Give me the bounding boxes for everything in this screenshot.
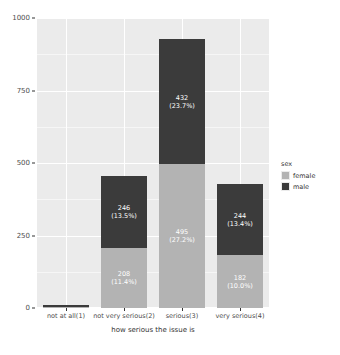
legend-label-male: male [293, 183, 309, 191]
bar-label-female-percent-2: (11.4%) [111, 278, 137, 286]
bar-label-female-percent-4: (10.0%) [227, 282, 253, 290]
y-tick-mark-500 [32, 163, 35, 164]
bar-group-very-serious[interactable]: 182 (10.0%) 244 (13.4%) [217, 184, 263, 308]
bar-segment-female-very-serious[interactable]: 182 (10.0%) [217, 255, 263, 308]
bar-label-female-value-3: 495 [176, 228, 188, 236]
legend-key-male [281, 182, 290, 191]
x-tick-mark-1 [66, 308, 67, 311]
legend-item-male[interactable]: male [281, 182, 337, 191]
legend-key-female [281, 171, 290, 180]
y-tick-mark-0 [32, 308, 35, 309]
stacked-bar-chart: 1000 750 500 250 0 [0, 0, 340, 355]
bar-label-male-value-2: 246 [118, 204, 130, 212]
bar-label-male-value-4: 244 [234, 212, 246, 220]
bar-label-male-percent-2: (13.5%) [111, 212, 137, 220]
y-tick-mark-1000 [32, 18, 35, 19]
bar-label-female-value-4: 182 [234, 274, 246, 282]
x-axis: not at all(1) not very serious(2) seriou… [37, 308, 269, 324]
bar-group-not-very-serious[interactable]: 208 (11.4%) 246 (13.5%) [101, 176, 147, 308]
bar-group-serious[interactable]: 495 (27.2%) 432 (23.7%) [159, 39, 205, 308]
bar-label-male-percent-3: (23.7%) [169, 102, 195, 110]
bar-label-female-value-2: 208 [118, 270, 130, 278]
legend: sex female male [281, 160, 337, 193]
x-tick-mark-4 [240, 308, 241, 311]
bar-segment-female-not-very-serious[interactable]: 208 (11.4%) [101, 248, 147, 308]
x-tick-mark-3 [182, 308, 183, 311]
bar-segment-male-serious[interactable]: 432 (23.7%) [159, 39, 205, 164]
gridline-y-625 [37, 127, 269, 128]
legend-label-female: female [293, 172, 315, 180]
bar-segment-female-serious[interactable]: 495 (27.2%) [159, 164, 205, 308]
x-tick-label-not-very-serious: not very serious(2) [93, 312, 155, 320]
legend-title: sex [281, 160, 337, 168]
gridline-y-500 [37, 163, 269, 164]
bar-label-male-percent-4: (13.4%) [227, 220, 253, 228]
y-tick-label-250: 250 [17, 232, 30, 240]
y-tick-label-0: 0 [26, 304, 30, 312]
x-tick-label-serious: serious(3) [166, 312, 199, 320]
y-tick-mark-250 [32, 235, 35, 236]
bar-label-male-value-3: 432 [176, 94, 188, 102]
bar-segment-male-very-serious[interactable]: 244 (13.4%) [217, 184, 263, 255]
x-tick-label-very-serious: very serious(4) [216, 312, 265, 320]
gridline-y-750 [37, 91, 269, 92]
gridline-x-cat1 [66, 18, 67, 308]
y-axis: 1000 750 500 250 0 [0, 18, 36, 308]
plot-panel: 208 (11.4%) 246 (13.5%) 495 (27.2%) 432 … [37, 18, 269, 308]
legend-swatch-male [282, 183, 289, 190]
bar-segment-male-not-at-all[interactable] [43, 305, 89, 307]
x-axis-title: how serious the issue is [37, 326, 269, 334]
x-tick-label-not-at-all: not at all(1) [47, 312, 85, 320]
legend-item-female[interactable]: female [281, 171, 337, 180]
gridline-y-1000 [37, 18, 269, 19]
y-tick-label-1000: 1000 [12, 14, 30, 22]
x-tick-mark-2 [124, 308, 125, 311]
bar-label-female-percent-3: (27.2%) [169, 236, 195, 244]
legend-swatch-female [282, 172, 289, 179]
gridline-y-875 [37, 54, 269, 55]
bar-segment-male-not-very-serious[interactable]: 246 (13.5%) [101, 176, 147, 247]
y-tick-mark-750 [32, 90, 35, 91]
y-tick-label-750: 750 [17, 87, 30, 95]
y-tick-label-500: 500 [17, 159, 30, 167]
